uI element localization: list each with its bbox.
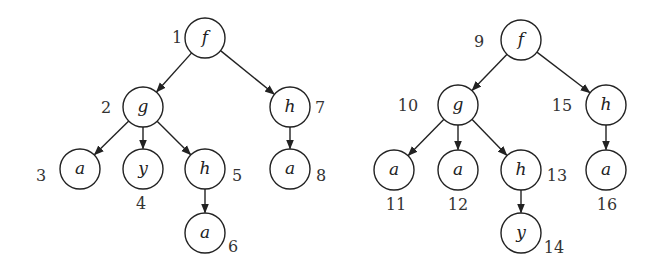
node-number-9: 9 <box>474 32 484 51</box>
edge-10-to-13 <box>472 119 507 155</box>
node-symbol: a <box>285 158 295 178</box>
node-symbol: a <box>453 159 463 179</box>
edge-2-to-5 <box>157 121 190 154</box>
node-symbol: a <box>200 222 210 242</box>
tree-node-3: a <box>60 149 100 189</box>
tree-node-2: g <box>123 87 163 127</box>
edge-9-to-15 <box>537 52 590 92</box>
tree-node-11: a <box>374 150 414 190</box>
tree-node-8: a <box>270 149 310 189</box>
node-number-3: 3 <box>36 166 46 185</box>
edge-9-to-10 <box>472 54 507 90</box>
node-symbol: g <box>453 94 464 114</box>
edge-1-to-2 <box>157 53 192 92</box>
tree-node-12: a <box>438 150 478 190</box>
tree-node-16: a <box>586 150 626 190</box>
node-symbol: h <box>200 158 211 178</box>
tree-diagram-canvas: fghayhaafghaahay 12734586910151112131614 <box>0 0 663 274</box>
tree-node-15: h <box>586 85 626 125</box>
node-number-1: 1 <box>172 28 182 47</box>
node-symbol: y <box>137 158 148 178</box>
edge-10-to-11 <box>408 119 444 155</box>
node-symbol: h <box>516 159 527 179</box>
node-symbol: a <box>389 159 399 179</box>
node-symbol: y <box>515 222 526 242</box>
node-number-15: 15 <box>552 96 572 115</box>
tree-node-13: h <box>501 150 541 190</box>
node-number-10: 10 <box>398 96 418 115</box>
node-number-12: 12 <box>448 195 468 214</box>
node-symbol: g <box>138 96 149 116</box>
tree-node-9: f <box>501 20 541 60</box>
tree-node-14: y <box>501 213 541 253</box>
tree-diagram: fghayhaafghaahay 12734586910151112131614 <box>0 0 663 274</box>
node-symbol: h <box>601 94 612 114</box>
tree-node-10: g <box>438 85 478 125</box>
tree-node-4: y <box>123 149 163 189</box>
node-number-14: 14 <box>544 238 564 257</box>
tree-node-6: a <box>185 213 225 253</box>
node-number-6: 6 <box>228 237 238 256</box>
tree-node-7: h <box>270 87 310 127</box>
node-number-8: 8 <box>316 166 326 185</box>
node-number-13: 13 <box>547 166 567 185</box>
node-number-16: 16 <box>597 195 617 214</box>
node-number-11: 11 <box>386 195 406 214</box>
node-symbol: a <box>601 159 611 179</box>
node-number-2: 2 <box>101 98 111 117</box>
node-number-5: 5 <box>232 166 242 185</box>
node-number-7: 7 <box>315 98 325 117</box>
tree-node-5: h <box>185 149 225 189</box>
tree-node-1: f <box>185 18 225 58</box>
node-symbol: h <box>285 96 296 116</box>
nodes-layer: fghayhaafghaahay <box>60 18 626 253</box>
edge-1-to-7 <box>221 51 275 94</box>
node-number-4: 4 <box>136 194 146 213</box>
node-symbol: a <box>75 158 85 178</box>
edge-2-to-3 <box>95 121 129 155</box>
